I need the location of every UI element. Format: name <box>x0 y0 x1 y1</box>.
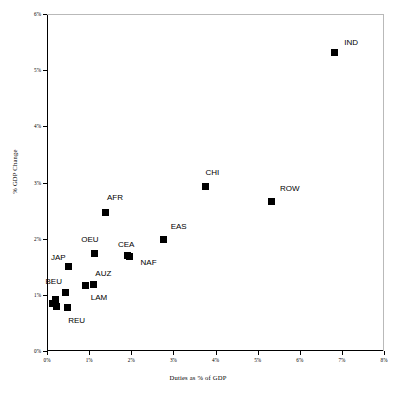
scatter-plot-figure: 0%1%2%3%4%5%6% 0%1%2%3%4%5%6%7%8% INDROW… <box>0 0 396 393</box>
data-point-label-reu: REU <box>68 316 85 325</box>
data-point-label-oeu: OEU <box>81 235 98 244</box>
data-point-label-afr: AFR <box>107 193 123 202</box>
data-point-label-chi: CHI <box>205 168 219 177</box>
x-axis-tick-mark <box>258 351 259 355</box>
data-point-label-ind: IND <box>344 38 358 47</box>
y-axis-tick-mark <box>43 126 47 127</box>
data-point-auz <box>90 281 97 288</box>
y-axis-title: % GDP Change <box>11 122 18 222</box>
y-axis-tick-label: 5% <box>24 67 41 73</box>
data-point-label-cea: CEA <box>118 240 134 249</box>
data-point-row <box>268 198 275 205</box>
x-axis-tick-mark <box>300 351 301 355</box>
data-point-ind <box>331 49 338 56</box>
data-point-label-row: ROW <box>280 184 300 193</box>
data-point-label-eas: EAS <box>171 222 187 231</box>
x-axis-tick-label: 6% <box>288 357 312 364</box>
data-point-label-auz: AUZ <box>95 269 111 278</box>
data-point-label-naf: NAF <box>141 258 157 267</box>
data-point-chi <box>202 183 209 190</box>
plot-frame-top-edge <box>47 14 384 15</box>
x-axis-tick-label: 4% <box>204 357 228 364</box>
x-axis-tick-mark <box>131 351 132 355</box>
x-axis-tick-mark <box>47 351 48 355</box>
data-point-beu <box>62 289 69 296</box>
x-axis-title: Duties as % of GDP <box>0 374 396 381</box>
data-point-naf <box>126 253 133 260</box>
y-axis-tick-mark <box>43 295 47 296</box>
data-point-label-beu: BEU <box>46 277 62 286</box>
x-axis-tick-mark <box>173 351 174 355</box>
x-axis-tick-label: 1% <box>77 357 101 364</box>
y-axis-tick-mark <box>43 183 47 184</box>
x-axis-tick-mark <box>216 351 217 355</box>
x-axis-tick-label: 8% <box>372 357 396 364</box>
y-axis-tick-label: 4% <box>24 123 41 129</box>
data-point-reu <box>64 304 71 311</box>
data-point-lam <box>82 282 89 289</box>
y-axis-tick-label: 2% <box>24 236 41 242</box>
y-axis-tick-mark <box>43 14 47 15</box>
plot-frame-right-edge <box>383 14 384 351</box>
x-axis-tick-label: 7% <box>330 357 354 364</box>
y-axis-tick-label: 1% <box>24 292 41 298</box>
x-axis-tick-mark <box>384 351 385 355</box>
data-point-oeu <box>91 250 98 257</box>
data-point-eas <box>160 236 167 243</box>
y-axis-tick-label: 3% <box>24 180 41 186</box>
x-axis-tick-mark <box>89 351 90 355</box>
data-point-afr <box>102 209 109 216</box>
x-axis-tick-label: 3% <box>161 357 185 364</box>
data-point-label-jap: JAP <box>51 253 66 262</box>
y-axis-tick-label: 6% <box>24 11 41 17</box>
data-point-jap <box>65 263 72 270</box>
y-axis-tick-mark <box>43 70 47 71</box>
x-axis-tick-label: 2% <box>119 357 143 364</box>
y-axis-tick-mark <box>43 239 47 240</box>
x-axis-tick-mark <box>342 351 343 355</box>
x-axis-tick-label: 5% <box>246 357 270 364</box>
y-axis-tick-label: 0% <box>24 348 41 354</box>
data-point-label-lam: LAM <box>91 293 107 302</box>
data-point <box>53 303 60 310</box>
x-axis-tick-label: 0% <box>35 357 59 364</box>
